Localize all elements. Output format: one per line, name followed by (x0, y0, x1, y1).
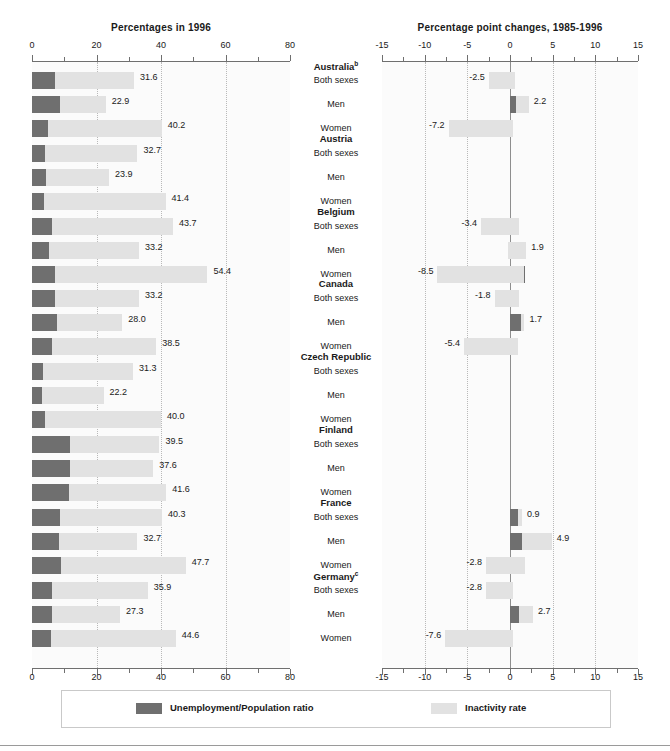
bar-segment-inactivity (52, 606, 120, 623)
legend-swatch-inactivity (431, 703, 457, 714)
bar-segment-unemployment (32, 120, 48, 137)
left-tick-label: 20 (91, 40, 101, 50)
left-bar-row (32, 411, 161, 428)
category-label: Women (296, 123, 376, 133)
bar-segment-unemployment (32, 72, 55, 89)
category-label: Both sexes (296, 75, 376, 85)
bar-value-label: 38.5 (162, 338, 180, 348)
country-label-canada: Canada (296, 278, 376, 289)
country-label-australia: Australiab (296, 60, 376, 72)
bar-segment-inactivity (45, 145, 137, 162)
left-tick-label: 60 (220, 40, 230, 50)
change-segment-inactivity (508, 242, 526, 259)
category-label: Both sexes (296, 148, 376, 158)
left-tick-label: 0 (29, 672, 34, 682)
category-label: Both sexes (296, 293, 376, 303)
change-value-label: -7.6 (419, 630, 441, 640)
bar-segment-unemployment (32, 582, 52, 599)
left-tick-minor (129, 57, 130, 61)
country-label-austria: Austria (296, 133, 376, 144)
bar-segment-inactivity (60, 509, 162, 526)
right-tick-label: 0 (507, 672, 512, 682)
category-label: Women (296, 196, 376, 206)
bar-value-label: 39.5 (165, 436, 183, 446)
right-tick-minor (446, 57, 447, 61)
change-value-label: 2.7 (538, 606, 551, 616)
change-segment-inactivity (489, 72, 515, 89)
right-tick-minor (489, 57, 490, 61)
category-label: Both sexes (296, 366, 376, 376)
right-tick-label: 15 (633, 40, 643, 50)
right-tick-minor (531, 669, 532, 673)
left-bar-row (32, 484, 166, 501)
left-gridline (161, 62, 162, 668)
change-value-label: -5.4 (438, 338, 460, 348)
left-bar-row (32, 436, 159, 453)
legend-label-unemployment: Unemployment/Population ratio (170, 702, 314, 713)
change-segment-inactivity (486, 582, 512, 599)
change-segment-inactivity (516, 96, 529, 113)
legend-swatch-unemployment (136, 703, 162, 714)
bar-segment-unemployment (32, 606, 52, 623)
bar-segment-unemployment (32, 387, 42, 404)
right-gridline (467, 62, 468, 668)
category-label: Men (296, 463, 376, 473)
bar-segment-unemployment (32, 218, 52, 235)
right-tick-major (382, 55, 383, 61)
change-value-label: 2.2 (534, 96, 547, 106)
right-gridline (595, 62, 596, 668)
left-tick-minor (258, 57, 259, 61)
bar-segment-unemployment (32, 436, 70, 453)
category-label: Men (296, 390, 376, 400)
left-tick-major (97, 55, 98, 61)
change-value-label: -2.8 (460, 582, 482, 592)
left-tick-label: 60 (220, 672, 230, 682)
right-tick-label: 15 (633, 672, 643, 682)
left-bar-row (32, 169, 109, 186)
bar-segment-unemployment (32, 630, 51, 647)
category-label: Women (296, 341, 376, 351)
change-segment-unemployment (510, 606, 519, 623)
left-tick-label: 20 (91, 672, 101, 682)
bar-segment-unemployment (32, 314, 57, 331)
right-tick-major (595, 55, 596, 61)
category-label: Men (296, 172, 376, 182)
bar-segment-unemployment (32, 460, 70, 477)
right-tick-minor (403, 57, 404, 61)
left-bar-row (32, 509, 162, 526)
left-bar-row (32, 363, 133, 380)
right-tick-minor (574, 57, 575, 61)
change-value-label: -1.8 (469, 290, 491, 300)
bar-segment-inactivity (55, 290, 139, 307)
bar-value-label: 33.2 (145, 242, 163, 252)
category-label: Men (296, 99, 376, 109)
category-label: Both sexes (296, 439, 376, 449)
change-segment-unemployment (510, 533, 522, 550)
bar-segment-inactivity (57, 314, 122, 331)
change-value-label: 0.9 (527, 509, 540, 519)
left-bar-row (32, 193, 166, 210)
bar-segment-unemployment (32, 484, 69, 501)
change-segment-unemployment (510, 314, 521, 331)
left-tick-minor (193, 669, 194, 673)
change-value-label: 1.9 (531, 242, 544, 252)
category-label: Women (296, 414, 376, 424)
left-bar-row (32, 120, 162, 137)
left-tick-major (226, 55, 227, 61)
left-tick-minor (64, 669, 65, 673)
left-tick-label: 80 (285, 40, 295, 50)
right-tick-major (467, 55, 468, 61)
bar-segment-unemployment (32, 557, 61, 574)
right-tick-minor (617, 57, 618, 61)
bar-segment-inactivity (55, 72, 134, 89)
right-tick-minor (403, 669, 404, 673)
right-tick-major (510, 55, 511, 61)
left-tick-label: 0 (29, 40, 34, 50)
bar-value-label: 40.2 (168, 120, 186, 130)
left-bar-row (32, 242, 139, 259)
category-label: Women (296, 560, 376, 570)
bar-segment-unemployment (32, 290, 55, 307)
bar-segment-inactivity (49, 242, 139, 259)
bar-segment-unemployment (32, 145, 45, 162)
bar-segment-unemployment (32, 509, 60, 526)
